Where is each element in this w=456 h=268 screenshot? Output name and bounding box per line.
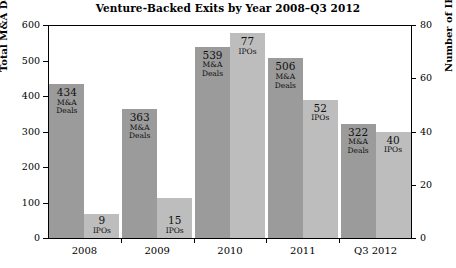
bar-label-ma: 322M&ADeals	[341, 127, 376, 156]
chart-title: Venture-Backed Exits by Year 2008–Q3 201…	[0, 2, 456, 14]
bar-value-ma: 434	[49, 87, 84, 99]
plot-top-border	[48, 25, 412, 26]
bar-unit-ipo: IPOs	[376, 146, 411, 154]
y-axis-left-tick	[43, 25, 48, 26]
bar-ma-deals[interactable]: 434M&ADeals	[49, 84, 84, 238]
y-axis-right-tick-label: 0	[420, 233, 426, 243]
bar-ipos[interactable]: 77IPOs	[230, 33, 265, 238]
y-axis-left-tick-label: 100	[22, 198, 40, 208]
chart-container: Venture-Backed Exits by Year 2008–Q3 201…	[0, 0, 456, 268]
bar-unit-ipo: IPOs	[157, 227, 192, 235]
x-axis-tick	[194, 238, 195, 243]
bar-label-ma: 363M&ADeals	[122, 112, 157, 141]
y-axis-right-title: Number of IPOs*	[443, 0, 454, 72]
bar-label-ipo: 15IPOs	[157, 215, 192, 235]
bar-unit-ma: M&ADeals	[341, 138, 376, 155]
bar-label-ipo: 52IPOs	[303, 103, 338, 123]
y-axis-right-tick-label: 80	[420, 20, 432, 30]
y-axis-left-title: Total M&A Deals	[0, 0, 9, 72]
x-axis-tick	[339, 238, 340, 243]
bar-unit-ipo: IPOs	[303, 114, 338, 122]
bar-unit-ma: M&ADeals	[122, 124, 157, 141]
plot-area: 0100200300400500600 020406080 434M&ADeal…	[48, 25, 412, 239]
x-axis-category-label: 2009	[121, 245, 194, 256]
y-axis-left-tick	[43, 167, 48, 168]
y-axis-right-tick-label: 60	[420, 73, 432, 83]
bar-unit-ipo: IPOs	[230, 48, 265, 56]
y-axis-left-tick-label: 0	[34, 233, 40, 243]
y-axis-left-tick	[43, 203, 48, 204]
bar-label-ma: 434M&ADeals	[49, 87, 84, 116]
bar-ma-deals[interactable]: 506M&ADeals	[268, 58, 303, 238]
bar-unit-ma: M&ADeals	[49, 99, 84, 116]
bar-value-ipo: 15	[157, 215, 192, 227]
y-axis-left-tick-label: 600	[22, 20, 40, 30]
bar-label-ipo: 40IPOs	[376, 135, 411, 155]
bar-value-ipo: 9	[84, 215, 119, 227]
bar-ma-deals[interactable]: 363M&ADeals	[122, 109, 157, 238]
y-axis-left-tick	[43, 238, 48, 239]
y-axis-left-tick	[43, 132, 48, 133]
bar-ipos[interactable]: 9IPOs	[84, 214, 119, 238]
y-axis-left-tick-label: 200	[22, 162, 40, 172]
bar-ipos[interactable]: 40IPOs	[376, 132, 411, 239]
bar-label-ma: 539M&ADeals	[195, 50, 230, 79]
y-axis-right-tick-label: 20	[420, 180, 432, 190]
bar-unit-ma: M&ADeals	[268, 73, 303, 90]
bar-value-ipo: 77	[230, 36, 265, 48]
y-axis-left-tick	[43, 61, 48, 62]
x-axis-category-label: Q3 2012	[339, 245, 412, 256]
bar-unit-ma: M&ADeals	[195, 61, 230, 78]
bar-unit-ipo: IPOs	[84, 227, 119, 235]
y-axis-left-tick-label: 300	[22, 127, 40, 137]
x-axis-category-label: 2011	[266, 245, 339, 256]
bar-ma-deals[interactable]: 539M&ADeals	[195, 47, 230, 238]
y-axis-right-tick	[411, 185, 416, 186]
bar-ipos[interactable]: 52IPOs	[303, 100, 338, 238]
x-axis-category-label: 2010	[194, 245, 267, 256]
y-axis-left-tick-label: 400	[22, 91, 40, 101]
y-axis-left-tick-label: 500	[22, 56, 40, 66]
bar-label-ma: 506M&ADeals	[268, 61, 303, 90]
bar-ma-deals[interactable]: 322M&ADeals	[341, 124, 376, 238]
x-axis-tick	[266, 238, 267, 243]
y-axis-right-tick-label: 40	[420, 127, 432, 137]
y-axis-left-tick	[43, 96, 48, 97]
y-axis-right-tick	[411, 78, 416, 79]
y-axis-right-tick	[411, 25, 416, 26]
bar-label-ipo: 77IPOs	[230, 36, 265, 56]
x-axis-tick	[121, 238, 122, 243]
y-axis-right-tick	[411, 238, 416, 239]
bar-ipos[interactable]: 15IPOs	[157, 198, 192, 238]
y-axis-right-tick	[411, 132, 416, 133]
x-axis-category-label: 2008	[48, 245, 121, 256]
bar-label-ipo: 9IPOs	[84, 215, 119, 235]
x-axis-line	[48, 238, 412, 239]
